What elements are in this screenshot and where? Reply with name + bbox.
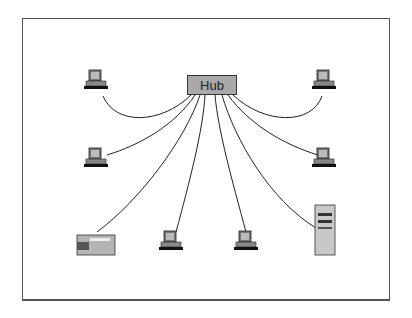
workstation-bottom-center-right-icon <box>234 231 258 250</box>
printer-icon <box>77 235 115 255</box>
server-icon <box>315 205 335 255</box>
workstation-bottom-center-left-icon <box>159 231 183 250</box>
workstation-mid-left-icon <box>84 148 108 167</box>
workstation-top-left-icon <box>84 70 108 89</box>
workstation-mid-right-icon <box>312 148 336 167</box>
hub-label: Hub <box>200 78 224 93</box>
connection-lines <box>0 0 412 318</box>
hub-node: Hub <box>187 75 237 95</box>
workstation-top-right-icon <box>312 70 336 89</box>
